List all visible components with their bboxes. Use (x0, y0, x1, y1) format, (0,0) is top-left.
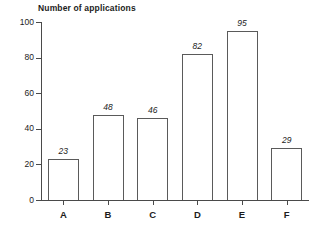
x-axis-line (41, 200, 309, 201)
bar-a (48, 159, 79, 200)
y-tick-label: 60 (0, 89, 34, 98)
y-tick-label: 40 (0, 124, 34, 133)
bar-value-label: 23 (43, 147, 83, 156)
bar-c (137, 118, 168, 200)
x-tick-mark (242, 201, 243, 205)
y-tick-label: 0 (0, 196, 34, 205)
x-axis-label-b: B (88, 210, 128, 220)
bar-value-label: 29 (267, 136, 307, 145)
x-axis-label-c: C (133, 210, 173, 220)
bar-e (227, 31, 258, 200)
x-tick-mark (63, 201, 64, 205)
x-axis-label-d: D (177, 210, 217, 220)
y-tick-label: 100 (0, 18, 34, 27)
y-tick-mark (36, 58, 41, 59)
y-axis-line (41, 22, 42, 201)
y-tick-mark (36, 200, 41, 201)
x-tick-mark (153, 201, 154, 205)
x-axis-label-f: F (267, 210, 307, 220)
y-tick-mark (36, 22, 41, 23)
bar-value-label: 46 (133, 106, 173, 115)
y-tick-mark (36, 129, 41, 130)
y-tick-mark (36, 93, 41, 94)
x-axis-label-e: E (222, 210, 262, 220)
x-tick-mark (108, 201, 109, 205)
x-axis-label-a: A (43, 210, 83, 220)
bar-b (93, 115, 124, 200)
x-tick-mark (197, 201, 198, 205)
bar-value-label: 82 (177, 42, 217, 51)
chart-title: Number of applications (38, 3, 136, 13)
x-tick-mark (287, 201, 288, 205)
y-tick-label: 20 (0, 160, 34, 169)
bar-value-label: 95 (222, 19, 262, 28)
y-tick-label: 80 (0, 53, 34, 62)
y-tick-mark (36, 164, 41, 165)
bar-chart: Number of applications 020406080100 2348… (0, 0, 319, 242)
bar-value-label: 48 (88, 103, 128, 112)
bar-d (182, 54, 213, 200)
bar-f (271, 148, 302, 200)
